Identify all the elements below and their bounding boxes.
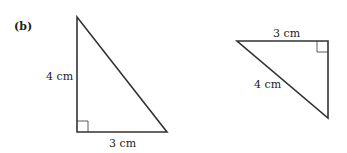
right-top-label: 3 cm	[273, 27, 301, 40]
left-horizontal-label: 3 cm	[109, 137, 137, 150]
right-hypotenuse-label: 4 cm	[254, 78, 282, 91]
left-triangle: 4 cm 3 cm	[46, 17, 167, 150]
right-angle-marker-icon	[77, 121, 88, 132]
left-vertical-label: 4 cm	[46, 70, 74, 83]
left-triangle-shape	[77, 17, 167, 132]
part-label: (b)	[14, 20, 32, 33]
figure: (b) 4 cm 3 cm 3 cm 4 cm	[0, 0, 347, 153]
right-triangle-shape	[237, 41, 328, 118]
right-angle-marker-icon	[317, 41, 328, 52]
right-triangle: 3 cm 4 cm	[237, 27, 328, 118]
